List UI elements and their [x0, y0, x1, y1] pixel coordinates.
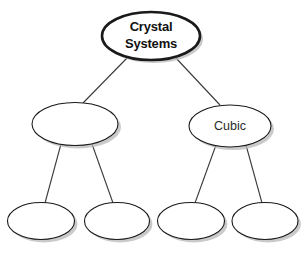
- connector-root-to-right: [175, 57, 220, 105]
- node-root[interactable]: Crystal Systems: [102, 12, 200, 60]
- node-branch-left[interactable]: [32, 103, 118, 146]
- node-leaf-2[interactable]: [85, 203, 150, 240]
- crystal-systems-diagram: Crystal Systems Cubic: [0, 0, 308, 255]
- node-leaf-3[interactable]: [158, 203, 225, 240]
- connector-right-to-leaf-4: [246, 145, 262, 203]
- node-leaf-3-shape[interactable]: [158, 203, 225, 240]
- node-leaf-1-shape[interactable]: [8, 203, 75, 240]
- node-leaf-2-shape[interactable]: [85, 203, 150, 240]
- diagram-canvas: Crystal Systems Cubic: [0, 0, 308, 255]
- connector-root-to-left: [83, 57, 128, 103]
- connector-left-to-leaf-1: [45, 144, 61, 203]
- node-leaf-4-shape[interactable]: [232, 203, 298, 240]
- node-branch-right-label: Cubic: [214, 119, 246, 133]
- node-root-label-line-2: Systems: [125, 36, 177, 51]
- node-root-label-line-1: Crystal: [130, 19, 173, 34]
- node-branch-right[interactable]: Cubic: [189, 105, 271, 147]
- connector-left-to-leaf-2: [92, 144, 113, 203]
- node-leaf-1[interactable]: [8, 203, 75, 240]
- node-leaf-4[interactable]: [232, 203, 298, 240]
- node-branch-left-shape[interactable]: [32, 103, 118, 146]
- connector-right-to-leaf-3: [195, 145, 216, 203]
